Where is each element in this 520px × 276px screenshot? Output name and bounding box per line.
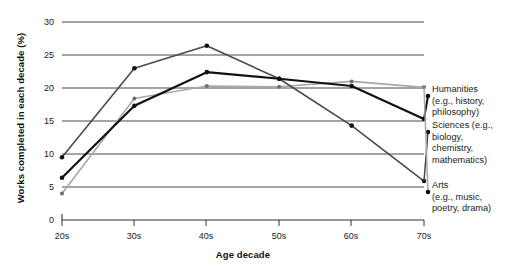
line-chart: 30 25 20 15 10 5 0 20s 30s 40s 50s 60s 7… (0, 0, 520, 276)
series-line (62, 46, 424, 181)
legend-marker (426, 190, 431, 195)
data-point (60, 155, 65, 160)
x-tick-label-30s: 30s (127, 231, 142, 241)
legend-arts-label: Arts (432, 180, 448, 190)
x-tick-label-40s: 40s (199, 231, 214, 241)
x-tick-label-50s: 50s (272, 231, 287, 241)
y-axis-title: Works completed in each decade (%) (15, 33, 26, 204)
legend-humanities-line1: (e.g., history, (432, 96, 484, 106)
data-point (132, 104, 137, 109)
y-tick-label-10: 10 (44, 149, 54, 159)
data-point (277, 85, 281, 89)
y-tick-label-30: 30 (44, 17, 54, 27)
legend-humanities-line2: philosophy) (432, 107, 479, 117)
legend-sciences: Sciences (e.g., biology, chemistry, math… (432, 120, 518, 166)
y-tick-label-0: 0 (49, 215, 54, 225)
data-point (205, 43, 210, 48)
data-series-layer (60, 43, 427, 195)
series-line (62, 81, 424, 193)
series-arts (60, 79, 426, 195)
legend-arts: Arts (e.g., music, poetry, drama) (432, 180, 518, 215)
legend-arts-line1: (e.g., music, (432, 192, 482, 202)
y-tick-label-15: 15 (44, 116, 54, 126)
x-tick-label-60s: 60s (344, 231, 359, 241)
data-point (205, 84, 209, 88)
legend-humanities: Humanities (e.g., history, philosophy) (432, 84, 518, 119)
legend-sciences-line3: mathematics) (432, 155, 487, 165)
x-tick-label-70s: 70s (417, 231, 432, 241)
data-point (277, 76, 282, 81)
data-point (60, 192, 64, 196)
data-point (349, 84, 354, 89)
legend-sciences-label: Sciences (e.g., (432, 120, 493, 130)
legend-marker-layer (424, 87, 430, 194)
legend-marker (426, 94, 431, 99)
data-point (205, 70, 210, 75)
x-tick-label-20s: 20s (55, 231, 70, 241)
axis-spines (62, 214, 424, 220)
series-sciences (60, 43, 427, 183)
gridlines (62, 22, 424, 187)
legend-sciences-line2: chemistry, (432, 143, 473, 153)
x-tick-marks (62, 220, 424, 226)
data-point (349, 123, 354, 128)
legend-humanities-label: Humanities (432, 84, 478, 94)
legend-arts-line2: poetry, drama) (432, 203, 491, 213)
data-point (132, 66, 137, 71)
data-point (350, 79, 354, 83)
data-point (132, 97, 136, 101)
y-tick-label-5: 5 (49, 182, 54, 192)
y-tick-label-20: 20 (44, 83, 54, 93)
data-point (60, 175, 65, 180)
y-tick-label-25: 25 (44, 50, 54, 60)
legend-sciences-line1: biology, (432, 132, 463, 142)
axis-corner (62, 214, 424, 220)
x-axis-title: Age decade (216, 249, 270, 260)
